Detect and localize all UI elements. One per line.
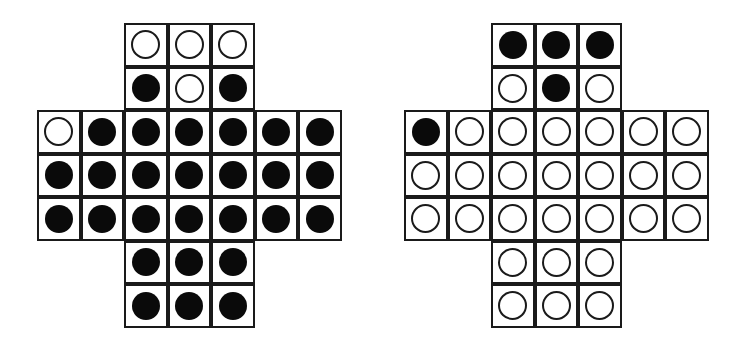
board-hole[interactable] (298, 110, 342, 154)
filled-peg-icon (306, 161, 334, 189)
board-hole[interactable] (578, 197, 622, 241)
board-hole[interactable] (37, 197, 81, 241)
board-hole[interactable] (81, 110, 125, 154)
board-hole[interactable] (211, 197, 255, 241)
board-hole[interactable] (168, 23, 212, 67)
board-hole[interactable] (124, 67, 168, 111)
empty-hole-icon (672, 161, 701, 190)
board-hole[interactable] (124, 154, 168, 198)
board-hole[interactable] (124, 110, 168, 154)
filled-peg-icon (175, 205, 203, 233)
empty-hole-icon (585, 117, 614, 146)
board-hole[interactable] (168, 241, 212, 285)
board-hole[interactable] (255, 154, 299, 198)
empty-hole-icon (498, 248, 527, 277)
board-hole[interactable] (491, 197, 535, 241)
filled-peg-icon (499, 31, 527, 59)
board-hole[interactable] (211, 154, 255, 198)
empty-hole-icon (498, 117, 527, 146)
empty-hole-icon (585, 74, 614, 103)
board-hole[interactable] (168, 284, 212, 328)
peg-board-left (37, 23, 342, 337)
filled-peg-icon (306, 118, 334, 146)
filled-peg-icon (132, 205, 160, 233)
empty-hole-icon (218, 30, 247, 59)
board-hole[interactable] (491, 284, 535, 328)
board-hole[interactable] (535, 154, 579, 198)
filled-peg-icon (219, 74, 247, 102)
board-hole[interactable] (211, 23, 255, 67)
empty-hole-icon (455, 161, 484, 190)
board-hole[interactable] (298, 197, 342, 241)
board-hole[interactable] (37, 110, 81, 154)
board-hole[interactable] (211, 241, 255, 285)
empty-hole-icon (585, 161, 614, 190)
board-hole[interactable] (491, 154, 535, 198)
board-hole[interactable] (622, 154, 666, 198)
board-hole[interactable] (37, 154, 81, 198)
board-hole[interactable] (81, 154, 125, 198)
board-hole[interactable] (211, 110, 255, 154)
board-hole[interactable] (622, 197, 666, 241)
board-hole[interactable] (665, 154, 709, 198)
board-hole[interactable] (578, 154, 622, 198)
board-hole[interactable] (168, 67, 212, 111)
board-hole[interactable] (535, 67, 579, 111)
board-hole[interactable] (578, 241, 622, 285)
board-hole[interactable] (491, 110, 535, 154)
filled-peg-icon (412, 118, 440, 146)
board-hole[interactable] (404, 197, 448, 241)
board-hole[interactable] (535, 197, 579, 241)
filled-peg-icon (262, 205, 290, 233)
empty-hole-icon (629, 204, 658, 233)
board-hole[interactable] (535, 23, 579, 67)
filled-peg-icon (219, 292, 247, 320)
board-hole[interactable] (448, 154, 492, 198)
empty-hole-icon (455, 204, 484, 233)
empty-hole-icon (542, 117, 571, 146)
filled-peg-icon (219, 248, 247, 276)
empty-hole-icon (585, 248, 614, 277)
board-hole[interactable] (124, 197, 168, 241)
board-hole[interactable] (255, 197, 299, 241)
board-hole[interactable] (211, 67, 255, 111)
empty-hole-icon (498, 204, 527, 233)
board-hole[interactable] (578, 23, 622, 67)
empty-hole-icon (411, 204, 440, 233)
board-hole[interactable] (535, 284, 579, 328)
filled-peg-icon (306, 205, 334, 233)
board-hole[interactable] (535, 241, 579, 285)
filled-peg-icon (88, 118, 116, 146)
board-hole[interactable] (168, 197, 212, 241)
board-hole[interactable] (124, 23, 168, 67)
filled-peg-icon (219, 205, 247, 233)
board-hole[interactable] (535, 110, 579, 154)
board-hole[interactable] (578, 284, 622, 328)
board-hole[interactable] (448, 110, 492, 154)
filled-peg-icon (175, 118, 203, 146)
board-hole[interactable] (491, 241, 535, 285)
board-hole[interactable] (211, 284, 255, 328)
board-hole[interactable] (622, 110, 666, 154)
board-hole[interactable] (124, 284, 168, 328)
board-hole[interactable] (491, 67, 535, 111)
filled-peg-icon (175, 161, 203, 189)
board-hole[interactable] (404, 154, 448, 198)
board-hole[interactable] (168, 154, 212, 198)
board-hole[interactable] (665, 110, 709, 154)
board-hole[interactable] (255, 110, 299, 154)
peg-board-right (404, 23, 709, 337)
empty-hole-icon (498, 161, 527, 190)
board-hole[interactable] (665, 197, 709, 241)
board-hole[interactable] (578, 67, 622, 111)
board-hole[interactable] (168, 110, 212, 154)
board-hole[interactable] (81, 197, 125, 241)
board-hole[interactable] (124, 241, 168, 285)
board-hole[interactable] (298, 154, 342, 198)
board-hole[interactable] (448, 197, 492, 241)
filled-peg-icon (132, 292, 160, 320)
empty-hole-icon (542, 291, 571, 320)
board-hole[interactable] (578, 110, 622, 154)
board-hole[interactable] (404, 110, 448, 154)
board-hole[interactable] (491, 23, 535, 67)
